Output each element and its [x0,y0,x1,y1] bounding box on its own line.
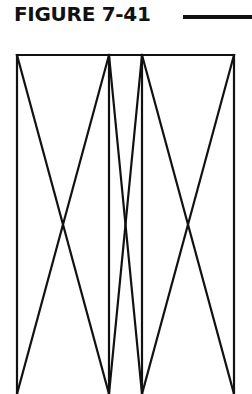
braced-frame-diagram [0,0,252,394]
